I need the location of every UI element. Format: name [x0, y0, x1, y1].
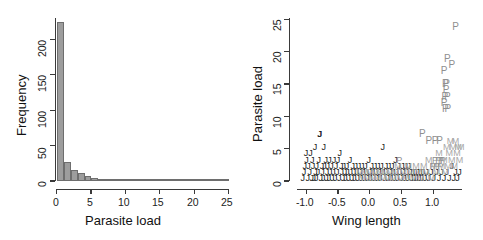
scatter-point-m: M	[442, 168, 450, 177]
scatter-point-j: J	[401, 168, 406, 177]
scatter-point-j: J	[347, 174, 352, 183]
scatter-point-j: J	[331, 168, 336, 177]
scatter-point-m: M	[364, 174, 372, 183]
scatter-point-j: J	[348, 168, 353, 177]
histogram-bar	[222, 179, 229, 181]
scatter-point-m: M	[454, 143, 462, 152]
scatter-point-j: J	[324, 155, 329, 164]
scatter-point-p: P	[444, 92, 451, 102]
histogram-y-tick-50	[50, 145, 55, 146]
scatter-point-j: J	[400, 161, 405, 170]
histogram-bar	[188, 179, 195, 181]
scatter-point-m: M	[457, 143, 465, 152]
histogram-bar	[78, 173, 85, 181]
histogram-bar	[133, 179, 140, 181]
scatter-point-m: M	[449, 143, 457, 152]
scatter-x-label-neg1: -1.0	[296, 196, 313, 208]
scatter-point-j: J	[356, 174, 361, 183]
scatter-point-j: J	[371, 174, 376, 183]
scatter-x-label-0p5: 0.5	[393, 196, 407, 208]
scatter-point-j: J	[411, 168, 416, 177]
scatter-point-j: J	[350, 174, 355, 183]
scatter-point-j: J	[345, 168, 350, 177]
scatter-point-j: J	[335, 168, 340, 177]
scatter-point-j: J	[329, 161, 334, 170]
scatter-point-j: J	[437, 174, 442, 183]
scatter-point-j: J	[423, 174, 428, 183]
scatter-point-j: J	[311, 161, 316, 170]
histogram-x-tick-20	[194, 189, 195, 194]
scatter-point-m: M	[428, 174, 436, 183]
scatter-point-j: J	[339, 161, 344, 170]
scatter-point-j: J	[343, 168, 348, 177]
scatter-x-tick-1	[433, 189, 434, 194]
scatter-point-p: P	[441, 66, 448, 76]
scatter-point-p: P	[435, 155, 441, 164]
scatter-point-j: J	[382, 174, 387, 183]
scatter-point-j: J	[403, 161, 408, 170]
histogram-bar	[201, 179, 208, 181]
scatter-point-m: M	[443, 143, 451, 152]
histogram-bar	[215, 179, 222, 181]
scatter-point-j: J	[399, 174, 404, 183]
scatter-point-j: J	[363, 161, 368, 170]
scatter-point-j: J	[368, 174, 373, 183]
scatter-point-j: J	[350, 161, 355, 170]
scatter-point-j: J	[370, 161, 375, 170]
histogram-y-label-100: 100	[36, 111, 48, 128]
histogram-x-label-15: 15	[152, 196, 163, 208]
scatter-y-tick-25	[284, 19, 289, 20]
scatter-point-j: J	[395, 168, 400, 177]
scatter-point-m: M	[379, 174, 387, 183]
scatter-point-j: J	[381, 168, 386, 177]
scatter-point-j: J	[325, 168, 330, 177]
scatter-point-j: J	[413, 168, 418, 177]
scatter-point-m: M	[445, 149, 453, 158]
scatter-point-j: J	[389, 174, 394, 183]
scatter-point-j: J	[384, 168, 389, 177]
scatter-point-m: M	[389, 174, 397, 183]
scatter-point-j: J	[311, 174, 316, 183]
scatter-point-j: J	[341, 174, 346, 183]
scatter-point-j: J	[418, 168, 423, 177]
scatter-y-axis-title: Parasite load	[250, 66, 265, 142]
scatter-point-j: J	[368, 168, 373, 177]
scatter-point-m: M	[444, 161, 452, 170]
scatter-y-tick-20	[284, 51, 289, 52]
scatter-point-m: M	[374, 174, 382, 183]
scatter-point-m: M	[435, 149, 443, 158]
scatter-x-tick-neg1	[306, 189, 307, 194]
scatter-point-j: J	[439, 168, 444, 177]
scatter-point-j: J	[357, 161, 362, 170]
histogram-bar	[146, 179, 153, 181]
scatter-point-j: J	[304, 155, 309, 164]
histogram-bar	[112, 179, 119, 181]
scatter-point-p: P	[433, 161, 439, 170]
scatter-point-j: J	[304, 149, 309, 158]
scatter-point-j: J	[322, 161, 327, 170]
scatter-y-tick-0	[284, 180, 289, 181]
scatter-point-j: J	[348, 155, 353, 164]
scatter-point-j: J	[391, 168, 396, 177]
scatter-point-j: J	[442, 174, 447, 183]
scatter-point-j: J	[318, 130, 323, 139]
scatter-point-j: J	[327, 155, 332, 164]
scatter-point-m: M	[438, 161, 446, 170]
scatter-point-j: J	[332, 155, 337, 164]
scatter-point-m: M	[356, 168, 364, 177]
scatter-point-p: P	[430, 161, 436, 170]
scatter-point-j: J	[352, 174, 357, 183]
scatter-point-m: M	[358, 174, 366, 183]
histogram-x-tick-15	[159, 189, 160, 194]
scatter-point-j: J	[361, 168, 366, 177]
scatter-point-p: P	[432, 136, 439, 146]
scatter-point-j: J	[364, 168, 369, 177]
scatter-point-j: J	[444, 168, 449, 177]
histogram-bar	[153, 179, 160, 181]
scatter-point-j: J	[336, 155, 341, 164]
histogram-bar	[195, 179, 202, 181]
scatter-y-label-0: 0	[271, 181, 283, 187]
histogram-x-tick-5	[90, 189, 91, 194]
scatter-y-label-25: 25	[271, 20, 283, 31]
histogram-bar	[167, 179, 174, 181]
